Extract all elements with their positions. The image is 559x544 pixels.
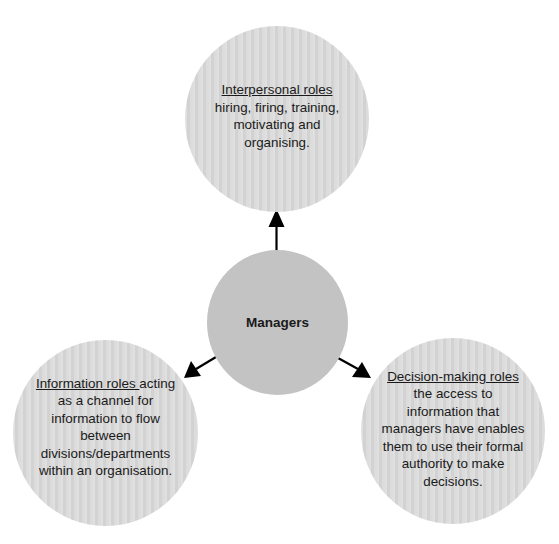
node-title: Interpersonal roles — [222, 81, 333, 99]
node-text-line: within an organisation. — [39, 462, 172, 480]
arrow-down-left-icon — [184, 357, 216, 378]
arrow-down-right-icon — [338, 358, 371, 378]
node-text-line: them to use their formal — [383, 438, 524, 456]
node-text-line: between — [80, 427, 131, 445]
node-text-line: information that — [407, 403, 499, 421]
center-label: Managers — [246, 315, 309, 330]
managers-node: Managers — [207, 250, 348, 395]
node-text-line: motivating and — [233, 116, 320, 134]
node-text-line: decisions. — [423, 473, 483, 491]
node-text-line: hiring, firing, training, — [215, 99, 339, 117]
decision-making-roles-node: Decision-making roles the access to info… — [361, 338, 545, 524]
node-text-line: information to flow — [51, 410, 160, 428]
node-title: Decision-making roles — [387, 368, 519, 386]
node-text-line: managers have enables — [382, 420, 525, 438]
node-text-line: the access to — [414, 385, 493, 403]
interpersonal-roles-node: Interpersonal roles hiring, firing, trai… — [185, 26, 369, 212]
node-text-line: as a channel for — [58, 392, 153, 410]
information-roles-node: Information roles acting as a channel fo… — [13, 340, 198, 526]
arrow-up-icon — [269, 209, 285, 251]
node-title-suffix: acting — [139, 376, 175, 391]
node-title: Information roles — [36, 376, 139, 391]
node-text-line: authority to make — [402, 455, 505, 473]
node-text-line: divisions/departments — [41, 445, 171, 463]
node-title-row: Information roles acting — [36, 375, 175, 393]
node-text-line: organising. — [244, 134, 310, 152]
